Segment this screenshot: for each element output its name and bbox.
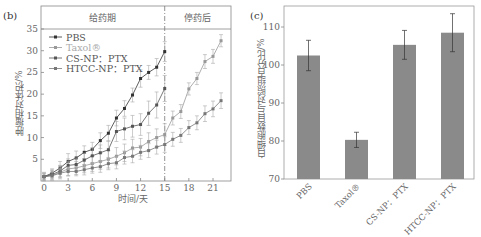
legend-label: Taxol® [66,42,101,53]
x-tick-label: 12 [135,183,146,193]
data-marker [163,143,166,146]
data-marker [99,165,102,168]
data-marker [131,125,134,128]
data-marker [147,140,150,143]
data-marker [83,168,86,171]
y-tick-label: 5 [32,154,38,164]
data-marker [59,172,62,175]
tumor-volume-line-chart: 给药期停药后5101520253035036912151821PBSTaxol®… [0,0,240,237]
data-marker [51,174,54,177]
data-marker [139,77,142,80]
data-marker [131,155,134,158]
plot-frame [284,6,474,179]
data-marker [171,117,174,120]
data-marker [107,148,110,151]
data-marker [155,136,158,139]
y-tick-label: 15 [27,111,39,121]
bar [393,45,416,179]
data-marker [163,133,166,136]
data-marker [139,123,142,126]
data-marker [123,107,126,110]
data-marker [123,127,126,130]
legend-marker [54,57,57,60]
y-tick-label: 70 [269,174,281,184]
right-y-axis-label: 白细胞数目与对照组百分比/% [254,18,267,178]
data-marker [67,170,70,173]
x-tick-label: 6 [89,183,95,193]
legend-label: HTCC-NP：PTX [66,63,143,74]
bar [345,140,368,179]
data-marker [115,117,118,120]
data-marker [203,60,206,63]
x-category-label: CS-NP：PTX [364,181,411,228]
x-category-label: HTCC-NP：PTX [402,181,458,237]
legend-marker [54,67,57,70]
data-marker [115,161,118,164]
data-marker [147,149,150,152]
x-tick-label: 9 [114,183,120,193]
data-marker [163,87,166,90]
data-marker [179,134,182,137]
data-marker [115,130,118,133]
data-marker [91,154,94,157]
data-marker [187,87,190,90]
data-marker [107,132,110,135]
data-marker [187,126,190,129]
data-marker [131,146,134,149]
data-marker [212,107,215,110]
data-marker [67,164,70,167]
y-tick-label: 25 [27,67,39,77]
data-marker [163,50,166,53]
data-marker [75,163,78,166]
data-marker [107,162,110,165]
data-marker [203,112,206,115]
data-marker [43,175,46,178]
bar [297,56,320,180]
dosing-period-label: 给药期 [89,12,116,23]
legend-marker [54,36,57,39]
data-marker [195,121,198,124]
y-tick-label: 10 [27,133,39,143]
x-tick-label: 18 [183,183,195,193]
bar [441,33,464,179]
data-marker [195,77,198,80]
data-marker [99,139,102,142]
data-marker [123,156,126,159]
data-marker [220,39,223,42]
x-category-label: Taxol® [333,181,362,210]
legend-label: PBS [66,32,86,43]
data-marker [220,99,223,102]
series-line [44,88,165,176]
y-tick-label: 30 [27,46,39,56]
post-dosing-label: 停药后 [184,12,211,23]
data-marker [212,55,215,58]
y-tick-label: 80 [269,136,281,146]
y-tick-label: 90 [269,98,281,108]
data-marker [155,66,158,69]
data-marker [147,71,150,74]
x-tick-label: 21 [207,183,218,193]
data-marker [155,104,158,107]
data-marker [171,138,174,141]
x-tick-label: 0 [41,183,47,193]
data-marker [147,112,150,115]
data-marker [139,151,142,154]
legend-marker [54,46,57,49]
data-marker [91,166,94,169]
x-tick-label: 15 [159,183,171,193]
data-marker [99,151,102,154]
legend-label: CS-NP：PTX [66,53,128,64]
y-tick-label: 35 [27,24,39,34]
x-tick-label: 3 [65,183,71,193]
data-marker [179,110,182,113]
x-category-label: PBS [294,181,314,201]
data-marker [83,159,86,162]
y-tick-label: 20 [27,89,39,99]
data-marker [131,94,134,97]
data-marker [155,146,158,149]
data-marker [75,170,78,173]
